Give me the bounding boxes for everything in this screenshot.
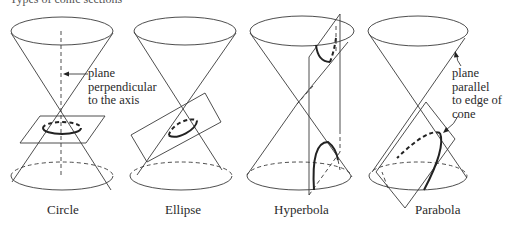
conic-diagrams [0,0,511,225]
parallel-plane [376,102,455,208]
upper-nappe-rim [11,17,113,45]
annotation-line: parallel [452,81,502,95]
caption-hyperbola: Hyperbola [274,203,329,216]
cone-edge-right [12,33,113,182]
annotation-line: cone [452,108,502,122]
parabola-annotation: plane parallel to edge of cone [452,67,502,121]
arrowhead-icon [63,72,69,77]
lower-rim-front [130,176,232,190]
lower-rim-front [369,176,467,190]
hyperbola-upper-branch-hidden [330,38,336,62]
parabola-curve-hidden [397,132,440,158]
arrowhead-icon [454,51,459,58]
ellipse-curve-back [166,115,197,135]
caption-ellipse: Ellipse [165,203,201,216]
annotation-line: to the axis [88,94,157,108]
lower-rim-back [130,162,232,176]
hyperbola-diagram [247,14,354,195]
lower-rim-front [11,176,113,190]
annotation-line: plane [452,67,502,81]
arrowhead-icon [443,127,449,133]
circle-annotation: plane perpendicular to the axis [88,67,157,108]
conic-sections-figure: Types of conic sections [0,0,511,225]
lower-rim-back [369,162,467,176]
lower-hidden-guide [338,160,340,170]
upper-nappe-rim [368,16,468,46]
upper-nappe-rim [250,16,354,46]
hyperbola-upper-branch [316,45,330,62]
caption-parabola: Parabola [415,203,460,216]
upper-nappe-rim [134,17,236,45]
annotation-line: perpendicular [88,81,157,95]
circle-curve-front [43,128,81,134]
perpendicular-plane [20,116,105,143]
annotation-line: plane [88,67,157,81]
vertical-plane-top-edge [309,14,340,57]
ellipse-curve-front [169,120,200,140]
caption-circle: Circle [47,203,79,216]
annotation-line: to edge of [452,94,502,108]
lower-rim-front [247,176,351,190]
lower-rim-back [247,162,351,176]
